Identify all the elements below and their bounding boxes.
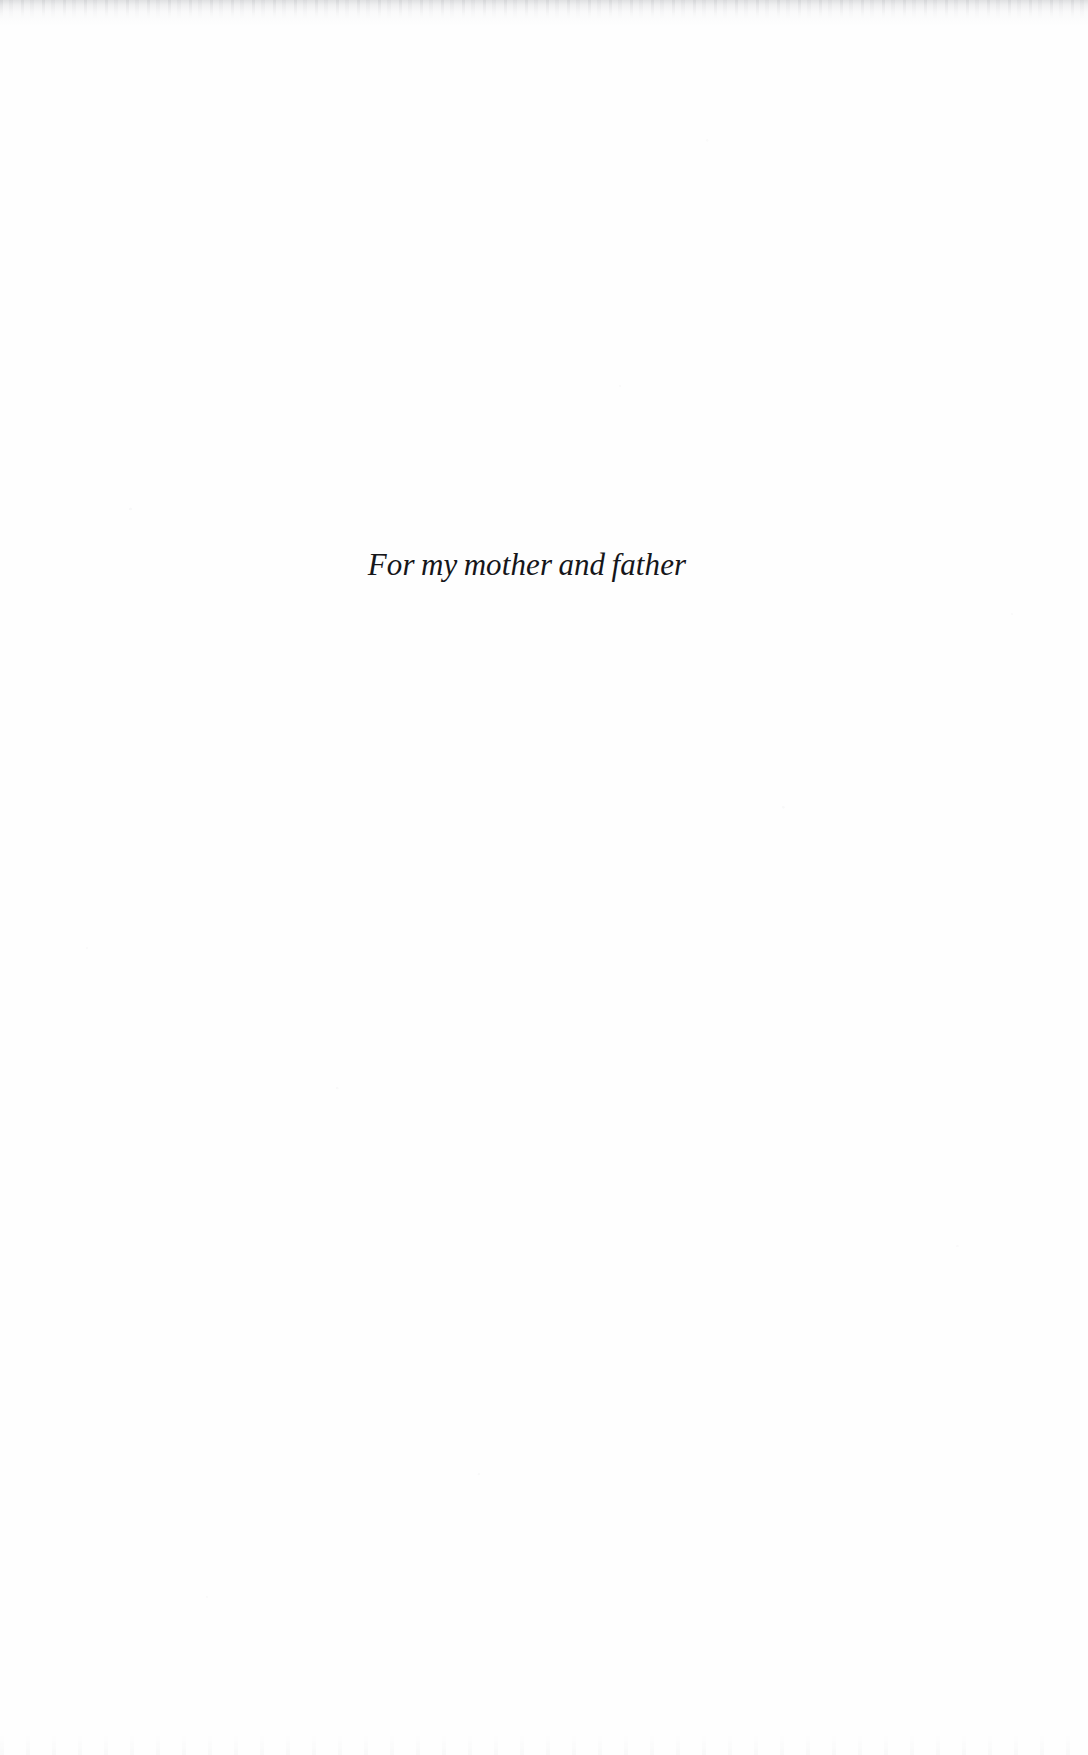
dedication-block: For my mother and father [0,546,1088,585]
page-top-edge-shadow [0,0,1088,26]
page-bottom-edge-speckle [0,1735,1088,1755]
page-top-edge-mottle [0,0,1088,18]
dedication-page: For my mother and father [0,0,1088,1755]
paper-texture [0,0,1088,1755]
dedication-text: For my mother and father [368,546,686,585]
